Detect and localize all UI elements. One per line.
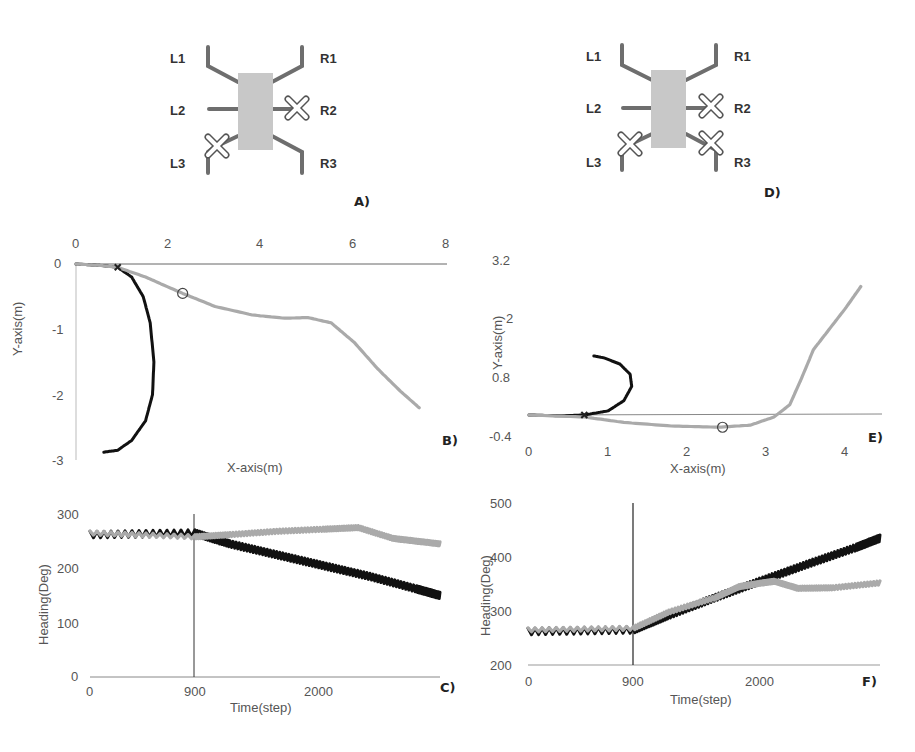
f-xlabel: Time(step)	[670, 692, 732, 707]
e-ytick-2: 2	[506, 311, 513, 326]
f-ytick-500: 500	[490, 496, 512, 511]
panel-label-f: F)	[862, 674, 877, 689]
b-xlabel: X-axis(m)	[227, 460, 283, 475]
f-ytick-200: 200	[490, 658, 512, 673]
e-xtick-0: 0	[525, 444, 532, 459]
c-series-grey	[90, 526, 440, 546]
f-xtick-2000: 2000	[745, 674, 774, 689]
c-xlabel: Time(step)	[230, 700, 292, 715]
e-ylabel: Y-axis(m)	[490, 316, 505, 370]
b-xtick-8: 8	[442, 236, 449, 251]
f-xtick-900: 900	[622, 674, 644, 689]
b-xtick-0: 0	[72, 236, 79, 251]
panel-label-b: B)	[442, 433, 458, 448]
f-xtick-0: 0	[525, 674, 532, 689]
b-ylabel: Y-axis(m)	[10, 302, 25, 356]
b-series-black	[76, 264, 154, 452]
c-xtick-0: 0	[86, 684, 93, 699]
c-ytick-300: 300	[57, 507, 79, 522]
c-ytick-200: 200	[57, 561, 79, 576]
e-xtick-1: 1	[604, 444, 611, 459]
b-xtick-6: 6	[349, 236, 356, 251]
b-ytick-m3: -3	[52, 453, 64, 468]
f-ytick-400: 400	[490, 550, 512, 565]
e-xtick-4: 4	[841, 444, 848, 459]
b-xtick-4: 4	[256, 236, 263, 251]
panel-label-c: C)	[440, 680, 455, 695]
e-series-grey	[529, 287, 861, 428]
e-xlabel: X-axis(m)	[670, 461, 726, 476]
b-xtick-2: 2	[164, 236, 171, 251]
e-xtick-3: 3	[762, 444, 769, 459]
c-xtick-900: 900	[184, 684, 206, 699]
c-ylabel: Heading(Deg)	[36, 564, 51, 645]
c-ytick-100: 100	[57, 616, 79, 631]
c-ytick-0: 0	[71, 669, 78, 684]
e-series-black	[529, 356, 632, 416]
panel-label-e: E)	[868, 430, 883, 445]
f-series-black	[528, 535, 880, 635]
e-xtick-2: 2	[683, 444, 690, 459]
trajectory-and-heading-charts	[0, 0, 915, 752]
e-ytick-m0.4: -0.4	[489, 429, 511, 444]
b-ytick-m1: -1	[52, 322, 64, 337]
b-ytick-0: 0	[54, 256, 61, 271]
e-ytick-0.8: 0.8	[492, 370, 510, 385]
b-ytick-m2: -2	[52, 388, 64, 403]
f-ytick-300: 300	[490, 604, 512, 619]
e-ytick-3.2: 3.2	[492, 253, 510, 268]
b-series-grey	[76, 264, 419, 408]
f-ylabel: Heading(Deg)	[478, 555, 493, 636]
c-xtick-2000: 2000	[304, 684, 333, 699]
